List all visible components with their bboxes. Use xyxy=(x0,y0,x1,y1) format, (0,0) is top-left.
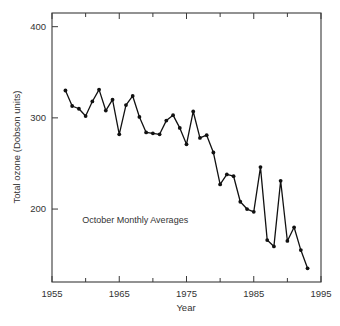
data-point-1980 xyxy=(218,183,222,187)
x-tick-label-1975: 1975 xyxy=(176,288,197,299)
data-point-1961 xyxy=(90,100,94,104)
x-tick-label-1995: 1995 xyxy=(310,288,331,299)
ozone-series-line xyxy=(65,90,307,269)
ozone-series-markers xyxy=(64,88,310,271)
data-point-1993 xyxy=(306,266,310,270)
x-axis-ticks: 19551965197519851995 xyxy=(41,13,331,299)
data-point-1988 xyxy=(272,245,276,249)
data-point-1963 xyxy=(104,109,108,113)
y-axis-title: Total ozone (Dobson units) xyxy=(11,90,22,203)
data-point-1992 xyxy=(299,248,303,252)
data-point-1962 xyxy=(97,88,101,92)
data-point-1986 xyxy=(259,165,263,169)
x-tick-label-1955: 1955 xyxy=(41,288,62,299)
data-point-1978 xyxy=(205,133,209,137)
data-point-1964 xyxy=(111,98,115,102)
data-point-1977 xyxy=(198,136,202,140)
data-point-1985 xyxy=(252,210,256,214)
data-point-1966 xyxy=(124,103,128,107)
chart-canvas: 200300400 19551965197519851995 October M… xyxy=(0,0,340,326)
y-tick-label-300: 300 xyxy=(30,112,46,123)
data-point-1989 xyxy=(279,179,283,183)
data-point-1969 xyxy=(144,131,148,135)
data-point-1974 xyxy=(178,126,182,130)
plot-frame xyxy=(52,13,321,282)
x-tick-label-1965: 1965 xyxy=(109,288,130,299)
chart-annotation-october-monthly-averages: October Monthly Averages xyxy=(82,215,188,225)
data-point-1979 xyxy=(212,151,216,155)
data-point-1957 xyxy=(64,89,68,93)
data-point-1965 xyxy=(117,132,121,136)
data-point-1984 xyxy=(245,207,249,211)
y-tick-label-200: 200 xyxy=(30,203,46,214)
data-point-1959 xyxy=(77,107,81,111)
x-axis-title: Year xyxy=(176,302,195,313)
x-tick-label-1985: 1985 xyxy=(243,288,264,299)
data-point-1973 xyxy=(171,113,175,117)
data-point-1987 xyxy=(265,238,269,242)
ozone-chart-figure: 200300400 19551965197519851995 October M… xyxy=(0,0,340,326)
y-tick-label-400: 400 xyxy=(30,21,46,32)
data-point-1968 xyxy=(138,115,142,119)
data-point-1990 xyxy=(285,239,289,243)
data-point-1972 xyxy=(164,119,168,123)
data-point-1958 xyxy=(70,104,74,108)
data-point-1960 xyxy=(84,114,88,118)
data-point-1971 xyxy=(158,132,162,136)
data-point-1981 xyxy=(225,173,229,177)
data-point-1975 xyxy=(185,142,189,146)
y-axis-ticks: 200300400 xyxy=(30,21,58,214)
data-point-1970 xyxy=(151,131,155,135)
data-point-1982 xyxy=(232,174,236,178)
data-point-1967 xyxy=(131,94,135,98)
data-point-1976 xyxy=(191,110,195,114)
data-point-1991 xyxy=(292,225,296,229)
data-point-1983 xyxy=(238,200,242,204)
